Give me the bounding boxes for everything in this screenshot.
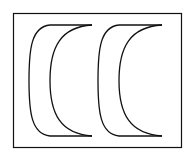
outer-arc	[98, 25, 119, 136]
inner-arc	[50, 25, 92, 136]
crescent-group	[29, 25, 162, 136]
diagram-canvas	[0, 0, 193, 154]
crescent-left	[29, 25, 92, 136]
outer-arc	[29, 25, 50, 136]
inner-arc	[119, 25, 162, 136]
crescent-right	[98, 25, 162, 136]
